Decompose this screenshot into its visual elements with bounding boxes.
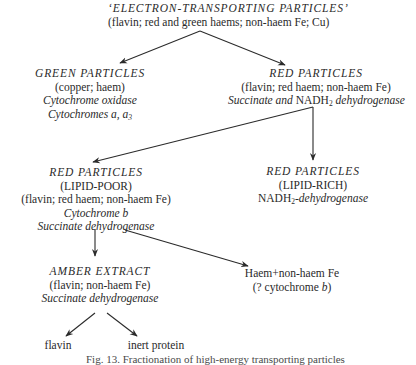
node-title: RED PARTICLES <box>228 67 404 81</box>
node-components: (flavin; red and green haems; non-haem F… <box>108 16 328 30</box>
node-enzyme: Cytochrome oxidase <box>34 94 146 108</box>
node-cytochrome: Cytochrome b <box>8 207 184 221</box>
arrow-root-to-green <box>120 31 200 63</box>
arrow-root-to-red <box>200 31 285 65</box>
node-green-particles: GREEN PARTICLES (copper; haem) Cytochrom… <box>34 67 146 121</box>
node-title: RED PARTICLES <box>8 166 184 180</box>
node-components: (flavin; red haem; non-haem Fe) <box>8 193 184 207</box>
cytochrome-prefix: Cytochrome <box>64 207 123 219</box>
enzyme-suffix: dehydrogenase <box>333 94 405 106</box>
node-subtitle: (LIPID-RICH) <box>255 179 371 193</box>
cytochromes-prefix: Cytochromes <box>48 108 111 120</box>
cytochrome-b: b <box>122 207 128 219</box>
node-subtitle: (LIPID-POOR) <box>8 180 184 194</box>
node-enzyme: Succinate and NADH2 dehydrogenase <box>228 94 404 108</box>
node-label: inert protein <box>122 339 190 353</box>
node-enzyme: NADH2-dehydrogenase <box>255 192 371 206</box>
node-inert-protein: inert protein <box>122 339 190 353</box>
arrow-amber-to-inert-protein <box>107 313 137 336</box>
node-enzyme: Succinate dehydrogenase <box>8 220 184 234</box>
node-cytochromes: Cytochromes a, a3 <box>34 108 146 122</box>
node-enzyme: Succinate dehydrogenase <box>38 292 162 306</box>
node-components: (flavin; red haem; non-haem Fe) <box>228 81 404 95</box>
nadh: NADH <box>296 94 329 106</box>
node-label: flavin <box>38 339 78 353</box>
arrow-amber-to-flavin <box>66 313 95 336</box>
node-line1: Haem+non-haem Fe <box>238 267 346 281</box>
node-title: GREEN PARTICLES <box>34 67 146 81</box>
node-title: ‘ELECTRON-TRANSPORTING PARTICLES’ <box>108 2 328 16</box>
enzyme-prefix: Succinate and <box>228 94 296 106</box>
node-red-particles-lipid-poor: RED PARTICLES (LIPID-POOR) (flavin; red … <box>8 166 184 234</box>
line2-prefix: (? cytochrome <box>253 281 322 293</box>
node-electron-transporting-particles: ‘ELECTRON-TRANSPORTING PARTICLES’ (flavi… <box>108 2 328 29</box>
node-haem-non-haem-fe: Haem+non-haem Fe (? cytochrome b) <box>238 267 346 294</box>
subscript: 3 <box>128 113 132 122</box>
node-title: RED PARTICLES <box>255 165 371 179</box>
arrow-lipid-poor-to-haem <box>125 230 248 266</box>
node-red-particles-lipid-rich: RED PARTICLES (LIPID-RICH) NADH2-dehydro… <box>255 165 371 206</box>
node-red-particles: RED PARTICLES (flavin; red haem; non-hae… <box>228 67 404 108</box>
node-line2: (? cytochrome b) <box>238 281 346 295</box>
node-components: (flavin; non-haem Fe) <box>38 279 162 293</box>
node-amber-extract: AMBER EXTRACT (flavin; non-haem Fe) Succ… <box>38 265 162 306</box>
node-flavin: flavin <box>38 339 78 353</box>
nadh: NADH <box>258 192 291 204</box>
enzyme-suffix: -dehydrogenase <box>295 192 368 204</box>
node-title: AMBER EXTRACT <box>38 265 162 279</box>
node-components: (copper; haem) <box>34 81 146 95</box>
line2-suffix: ) <box>327 281 331 293</box>
figure-caption: Fig. 13. Fractionation of high-energy tr… <box>86 353 345 365</box>
